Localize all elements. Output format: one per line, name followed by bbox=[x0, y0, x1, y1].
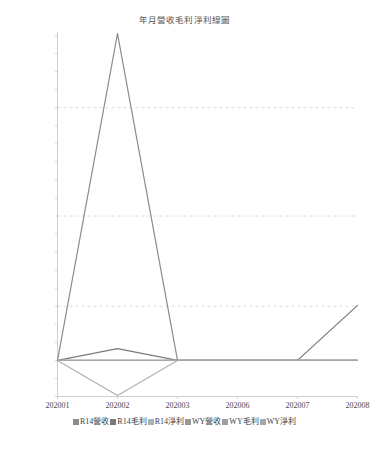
legend-label: R14淨利 bbox=[155, 418, 184, 426]
legend-item[interactable]: WY毛利 bbox=[222, 418, 258, 426]
x-tick-label: 202001 bbox=[46, 402, 70, 410]
legend-swatch-icon bbox=[185, 419, 191, 425]
legend-label: R14營收 bbox=[80, 418, 109, 426]
legend-swatch-icon bbox=[260, 419, 266, 425]
x-tick-label: 202002 bbox=[106, 402, 130, 410]
legend-label: WY營收 bbox=[192, 418, 221, 426]
legend-swatch-icon bbox=[222, 419, 228, 425]
legend-item[interactable]: R14淨利 bbox=[148, 418, 184, 426]
legend-label: WY毛利 bbox=[229, 418, 258, 426]
legend-swatch-icon bbox=[73, 419, 79, 425]
legend-label: WY淨利 bbox=[267, 418, 296, 426]
x-tick-label: 202007 bbox=[286, 402, 310, 410]
legend-item[interactable]: R14毛利 bbox=[110, 418, 146, 426]
legend-item[interactable]: WY淨利 bbox=[260, 418, 296, 426]
legend-swatch-icon bbox=[110, 419, 116, 425]
legend-item[interactable]: WY營收 bbox=[185, 418, 221, 426]
x-tick-label: 202003 bbox=[166, 402, 190, 410]
x-tick-label: 202006 bbox=[226, 402, 250, 410]
legend-label: R14毛利 bbox=[117, 418, 146, 426]
legend-item[interactable]: R14營收 bbox=[73, 418, 109, 426]
legend-swatch-icon bbox=[148, 419, 154, 425]
chart-legend: R14營收R14毛利R14淨利WY營收WY毛利WY淨利 bbox=[0, 418, 369, 426]
x-tick-label: 202008 bbox=[346, 402, 370, 410]
